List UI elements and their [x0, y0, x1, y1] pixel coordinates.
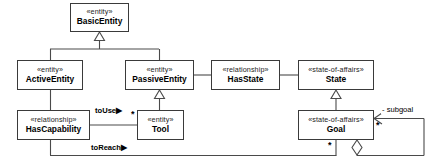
classname-basic-entity: BasicEntity — [77, 17, 123, 26]
classname-passive-entity: PassiveEntity — [132, 75, 186, 84]
generalization-arrowhead-passive-entity — [155, 90, 165, 99]
stereotype-active-entity: «entity» — [37, 66, 63, 74]
generalization-to-basic-entity — [50, 32, 160, 60]
classname-goal: Goal — [327, 125, 346, 134]
stereotype-goal: «state-of-affairs» — [308, 116, 364, 124]
classname-has-state: HasState — [228, 75, 264, 84]
classname-tool: Tool — [152, 125, 169, 134]
class-box-goal[interactable]: «state-of-affairs» Goal — [298, 110, 374, 140]
stereotype-has-capability: «relationship» — [30, 116, 76, 124]
aggregation-diamond-goal — [352, 140, 362, 155]
classname-state: State — [326, 75, 346, 84]
uml-class-diagram: Tool ===== --> Goal ===== --> «entity» B… — [0, 0, 436, 164]
multiplicity-subgoal: * — [376, 121, 380, 130]
classname-has-capability: HasCapability — [26, 125, 81, 134]
stereotype-basic-entity: «entity» — [87, 8, 113, 16]
generalization-arrowhead-state — [331, 90, 341, 99]
association-label-to-reach: toReach▶ — [90, 143, 128, 152]
stereotype-has-state: «relationship» — [222, 66, 268, 74]
class-box-has-state[interactable]: «relationship» HasState — [211, 60, 280, 90]
stereotype-state: «state-of-affairs» — [308, 66, 364, 74]
class-box-passive-entity[interactable]: «entity» PassiveEntity — [125, 60, 194, 90]
association-label-to-use: toUse▶ — [94, 106, 123, 115]
class-box-tool[interactable]: «entity» Tool — [137, 110, 184, 140]
stereotype-tool: «entity» — [148, 116, 174, 124]
class-box-active-entity[interactable]: «entity» ActiveEntity — [17, 60, 83, 90]
generalization-goal-to-state — [331, 90, 341, 110]
class-box-state[interactable]: «state-of-affairs» State — [298, 60, 374, 90]
generalization-arrowhead-basic-entity — [95, 32, 105, 41]
generalization-tool-to-passive-entity — [155, 90, 165, 110]
multiplicity-goal-to-reach: * — [328, 141, 332, 150]
class-box-basic-entity[interactable]: «entity» BasicEntity — [70, 3, 129, 32]
classname-active-entity: ActiveEntity — [26, 75, 74, 84]
role-label-subgoal: - subgoal — [381, 105, 414, 114]
class-box-has-capability[interactable]: «relationship» HasCapability — [17, 110, 90, 140]
multiplicity-to-use-tool: * — [131, 110, 135, 119]
stereotype-passive-entity: «entity» — [147, 66, 173, 74]
